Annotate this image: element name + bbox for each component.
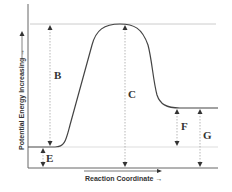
arrow-c-head-bottom bbox=[123, 162, 128, 167]
label-f: F bbox=[181, 120, 188, 132]
x-axis-label: Reaction Coordinate → bbox=[85, 175, 162, 182]
energy-diagram: Potential Energy Increasing → Reaction C… bbox=[0, 0, 232, 192]
label-e: E bbox=[46, 152, 53, 164]
arrow-g-head-bottom bbox=[198, 162, 203, 167]
arrow-b-head-bottom bbox=[48, 141, 53, 146]
arrow-f-head-top bbox=[175, 109, 180, 114]
energy-curve bbox=[28, 24, 218, 147]
arrow-b-head-top bbox=[48, 25, 53, 30]
label-g: G bbox=[203, 129, 212, 141]
arrow-f-head-bottom bbox=[175, 141, 180, 146]
y-axis-arrow-head bbox=[20, 31, 25, 36]
label-c: C bbox=[128, 88, 136, 100]
arrow-e-head-top bbox=[41, 148, 46, 153]
x-axis-arrow-head bbox=[157, 169, 162, 173]
arrow-g-head-top bbox=[198, 109, 203, 114]
label-b: B bbox=[54, 69, 62, 81]
y-axis-label: Potential Energy Increasing → bbox=[18, 49, 26, 150]
arrow-c-head-top bbox=[123, 25, 128, 30]
arrow-e-head-bottom bbox=[41, 162, 46, 167]
